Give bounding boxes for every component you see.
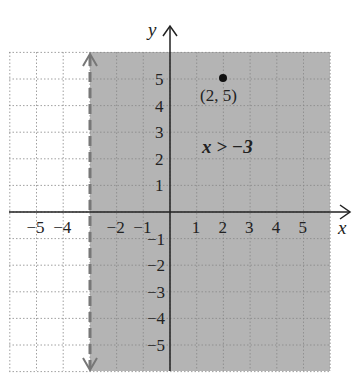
y-tick-label: 4 [155, 97, 164, 116]
x-tick-label: 2 [218, 218, 227, 237]
x-tick-label: 1 [192, 218, 201, 237]
x-tick-label: 5 [299, 218, 308, 237]
y-tick-label: 2 [155, 150, 164, 169]
x-tick-label: −4 [53, 218, 72, 237]
y-tick-label: −5 [147, 336, 165, 355]
y-tick-label: −3 [147, 283, 165, 302]
point-label: (2, 5) [200, 86, 237, 105]
x-tick-label: 3 [245, 218, 254, 237]
x-tick-label: −2 [107, 218, 125, 237]
y-tick-label: −4 [147, 309, 166, 328]
y-tick-label: 5 [155, 70, 164, 89]
y-tick-label: 1 [155, 176, 164, 195]
y-tick-label: 3 [155, 123, 164, 142]
inequality-annotation: x > −3 [201, 136, 253, 157]
y-axis-label: y [146, 19, 157, 40]
point-marker [219, 74, 227, 82]
inequality-graph: −5−4−2−11234554321−1−2−3−4−5 x y (2, 5) … [0, 0, 359, 390]
x-tick-label: 4 [272, 218, 281, 237]
x-tick-label: −5 [27, 218, 45, 237]
y-tick-label: −2 [147, 256, 165, 275]
y-tick-label: −1 [147, 230, 165, 249]
x-axis-label: x [337, 217, 347, 238]
